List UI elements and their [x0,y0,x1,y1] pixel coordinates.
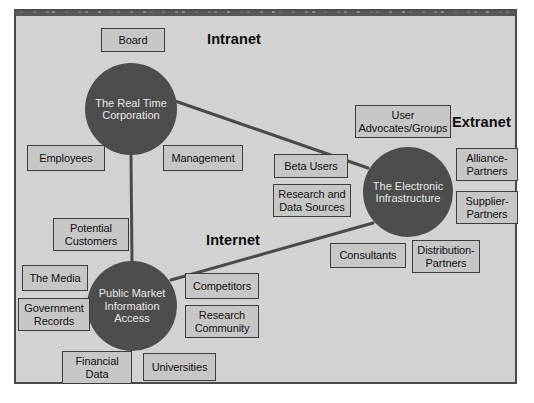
node-label: Supplier- Partners [460,195,514,220]
node-the-media[interactable]: The Media [22,265,88,291]
node-label: Distribution- Partners [416,244,476,269]
node-user-advocates-groups[interactable]: User Advocates/Groups [355,105,451,138]
node-label: User Advocates/Groups [359,109,448,134]
edge-corp-to-public-market [131,155,132,262]
node-label: The Media [29,272,80,285]
diagram-canvas: The Real Time CorporationThe Electronic … [0,0,534,403]
zone-label-extranet: Extranet [452,114,511,130]
node-label: Research Community [189,309,255,334]
zone-label-intranet: Intranet [207,31,261,47]
node-label: Consultants [340,249,397,262]
node-label: Government Records [22,302,86,327]
node-employees[interactable]: Employees [27,145,105,171]
node-label: Management [171,152,234,165]
node-consultants[interactable]: Consultants [330,243,406,268]
node-board[interactable]: Board [101,28,165,52]
node-management[interactable]: Management [163,145,243,171]
hub-label: Public Market Information Access [93,287,171,325]
node-competitors[interactable]: Competitors [185,273,259,299]
node-label: Beta Users [284,160,337,173]
node-label: Competitors [193,280,251,293]
node-potential-customers[interactable]: Potential Customers [53,218,129,251]
hub-label: The Real Time Corporation [91,97,171,122]
node-universities[interactable]: Universities [143,353,216,381]
diagram-stage: The Real Time CorporationThe Electronic … [0,0,534,403]
node-research-and-data-sources[interactable]: Research and Data Sources [273,184,351,217]
zone-label-internet: Internet [206,232,260,248]
hub-label: The Electronic Infrastructure [369,180,447,205]
connector-layer [0,0,534,403]
node-alliance-partners[interactable]: Alliance- Partners [456,148,518,181]
node-label: Universities [152,361,208,374]
node-label: Potential Customers [57,222,125,247]
node-supplier-partners[interactable]: Supplier- Partners [456,191,518,224]
node-research-community[interactable]: Research Community [185,305,259,338]
node-financial-data[interactable]: Financial Data [62,351,132,384]
node-government-records[interactable]: Government Records [18,298,90,331]
hub-real-time-corporation[interactable]: The Real Time Corporation [85,63,177,155]
node-beta-users[interactable]: Beta Users [274,154,348,178]
hub-electronic-infrastructure[interactable]: The Electronic Infrastructure [363,147,453,237]
node-label: Research and Data Sources [277,188,347,213]
node-label: Alliance- Partners [460,152,514,177]
hub-public-market-information-access[interactable]: Public Market Information Access [87,261,177,351]
node-label: Board [119,34,148,47]
node-label: Employees [39,152,93,165]
node-label: Financial Data [66,355,128,380]
node-distribution-partners[interactable]: Distribution- Partners [412,240,480,273]
